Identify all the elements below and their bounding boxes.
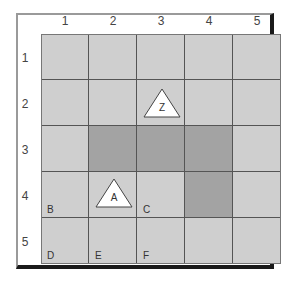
grid-cell[interactable]	[185, 218, 233, 264]
grid-cell-shaded[interactable]	[137, 126, 185, 172]
grid-cell-shaded[interactable]	[185, 172, 233, 218]
row-label-5: 5	[18, 235, 32, 249]
marker-label-a: A	[96, 192, 132, 203]
corner-label-e: E	[95, 250, 102, 261]
corner-label-f: F	[143, 250, 149, 261]
row-label-1: 1	[18, 51, 32, 65]
column-label-1: 1	[41, 14, 89, 28]
grid-cell[interactable]	[233, 218, 281, 264]
grid	[41, 34, 281, 264]
row-label-4: 4	[18, 189, 32, 203]
grid-cell[interactable]	[89, 80, 137, 126]
grid-cell[interactable]	[41, 34, 89, 80]
grid-cell[interactable]	[41, 126, 89, 172]
grid-cell[interactable]	[185, 80, 233, 126]
grid-cell-shaded[interactable]	[89, 126, 137, 172]
grid-cell[interactable]	[185, 34, 233, 80]
column-label-2: 2	[89, 14, 137, 28]
column-label-5: 5	[233, 14, 281, 28]
grid-cell[interactable]	[89, 34, 137, 80]
grid-cell[interactable]	[41, 80, 89, 126]
column-label-4: 4	[185, 14, 233, 28]
corner-label-b: B	[47, 204, 54, 215]
grid-cell[interactable]	[233, 172, 281, 218]
column-label-3: 3	[137, 14, 185, 28]
marker-label-z: Z	[144, 102, 180, 113]
grid-cell[interactable]	[233, 80, 281, 126]
row-label-3: 3	[18, 143, 32, 157]
grid-cell[interactable]	[233, 34, 281, 80]
corner-label-d: D	[47, 250, 54, 261]
grid-cell[interactable]	[233, 126, 281, 172]
row-label-2: 2	[18, 97, 32, 111]
grid-cell[interactable]	[137, 34, 185, 80]
grid-cell-shaded[interactable]	[185, 126, 233, 172]
corner-label-c: C	[143, 204, 150, 215]
